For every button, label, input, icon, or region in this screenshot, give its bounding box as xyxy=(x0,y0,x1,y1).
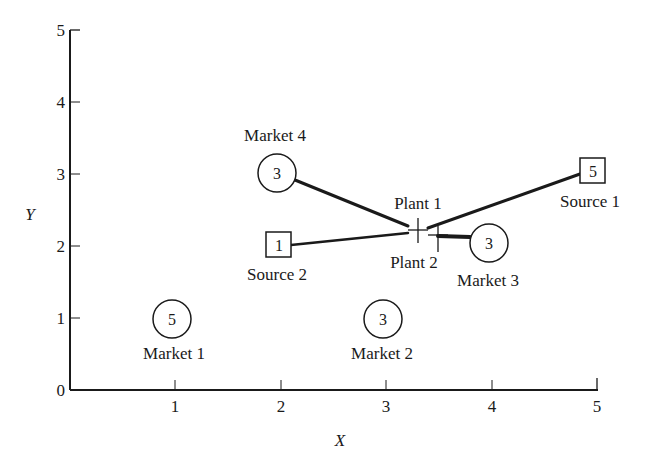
y-tick-label: 3 xyxy=(57,165,66,184)
x-tick-label: 4 xyxy=(488,397,497,416)
market1-value: 5 xyxy=(168,311,176,328)
market3-label: Market 3 xyxy=(457,271,519,290)
x-tick-label: 2 xyxy=(277,397,286,416)
plant2-marker xyxy=(428,226,448,252)
x-tick-label: 1 xyxy=(171,397,180,416)
y-tick-label: 0 xyxy=(57,381,66,400)
plant1-marker xyxy=(408,218,428,243)
plant1-label: Plant 1 xyxy=(394,194,442,213)
source1-value: 5 xyxy=(589,163,597,180)
market2-node: 3 xyxy=(364,300,402,338)
y-tick-label: 1 xyxy=(57,309,66,328)
market4-node: 3 xyxy=(258,154,296,192)
y-tick-labels: 5 4 3 2 1 0 xyxy=(57,21,66,400)
y-tick-label: 4 xyxy=(57,93,66,112)
market3-value: 3 xyxy=(485,235,493,252)
source1-node: 5 xyxy=(580,158,605,183)
x-axis-title: X xyxy=(334,431,346,450)
link-source2-plant1 xyxy=(291,233,408,245)
market4-value: 3 xyxy=(273,165,281,182)
market1-label: Market 1 xyxy=(143,344,205,363)
market2-label: Market 2 xyxy=(351,344,413,363)
axes xyxy=(70,30,598,390)
market3-node: 3 xyxy=(470,224,508,262)
link-source1-plant2 xyxy=(428,174,580,228)
link-market4-plant1 xyxy=(295,180,408,226)
plant2-label: Plant 2 xyxy=(390,253,438,272)
link-plant2-market3 xyxy=(438,236,470,237)
x-tick-labels: 1 2 3 4 5 xyxy=(171,397,602,416)
y-tick-label: 5 xyxy=(57,21,66,40)
x-tick-label: 3 xyxy=(382,397,391,416)
source2-value: 1 xyxy=(275,237,283,254)
market2-value: 3 xyxy=(379,311,387,328)
source2-label: Source 2 xyxy=(247,265,307,284)
market1-node: 5 xyxy=(153,300,191,338)
source1-label: Source 1 xyxy=(560,192,620,211)
y-axis-title: Y xyxy=(25,205,36,224)
y-tick-label: 2 xyxy=(57,237,66,256)
market4-label: Market 4 xyxy=(244,126,306,145)
location-chart: 5 4 3 2 1 0 1 2 3 4 5 Y X Plant 1 Plant … xyxy=(0,0,651,472)
x-tick-label: 5 xyxy=(593,397,602,416)
source2-node: 1 xyxy=(266,232,291,257)
